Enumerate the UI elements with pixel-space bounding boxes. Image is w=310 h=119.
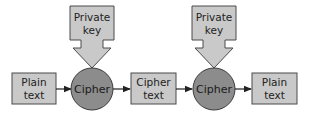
cipher-text-box: Cipher text [131,73,176,104]
plain-text-2-line1: Plain [262,76,287,88]
cipher-circle-2: Cipher [193,68,235,110]
plain-text-box-2: Plain text [252,73,297,104]
private-key-label-1-line2: key [83,24,101,36]
private-key-label-1-line1: Private [74,11,111,23]
cipher-text-line2: text [143,89,164,101]
plain-text-1-line1: Plain [21,76,46,88]
cipher-circle-1: Cipher [71,68,113,110]
cipher-1-label: Cipher [74,83,110,96]
cipher-2-label: Cipher [196,83,232,96]
cipher-text-line1: Cipher [136,76,171,88]
encryption-diagram: Private key Private key Plain text Ciphe… [0,0,310,119]
plain-text-1-line2: text [24,89,45,101]
plain-text-2-line2: text [264,89,285,101]
plain-text-box-1: Plain text [12,73,56,104]
private-key-label-2-line1: Private [196,11,233,23]
private-key-arrow-2: Private key [192,6,236,68]
private-key-arrow-1: Private key [70,6,114,68]
private-key-label-2-line2: key [205,24,223,36]
